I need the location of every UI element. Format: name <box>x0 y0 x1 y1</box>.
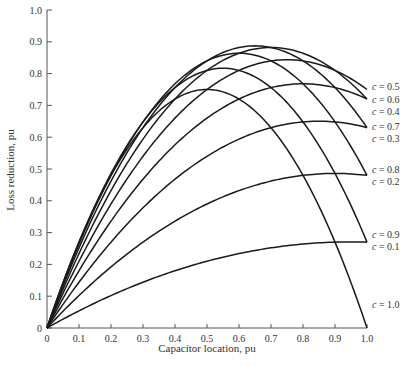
y-axis-title: Loss reduction, pu <box>4 129 16 211</box>
curve-c-0.3 <box>47 121 367 328</box>
y-tick-label: 0.3 <box>30 227 43 238</box>
y-tick-label: 0.1 <box>30 291 43 302</box>
x-tick-label: 0.9 <box>329 333 342 344</box>
curves <box>47 46 367 328</box>
curve-label: c = 0.3 <box>372 133 400 144</box>
x-tick-label: 1.0 <box>361 333 374 344</box>
y-tick-label: 0.2 <box>30 259 43 270</box>
curve-label: c = 0.5 <box>372 81 400 92</box>
curve-c-0.9 <box>47 68 367 328</box>
curve-label: c = 0.8 <box>372 164 400 175</box>
y-tick-label: 0.6 <box>30 132 43 143</box>
y-tick-label: 0.8 <box>30 68 43 79</box>
curve-label: c = 0.4 <box>372 106 400 117</box>
curve-c-0.1 <box>47 242 367 328</box>
curve-c-0.2 <box>47 173 367 328</box>
curve-label: c = 0.7 <box>372 121 400 132</box>
y-tick-label: 1.0 <box>30 5 43 16</box>
curve-label: c = 1.0 <box>372 299 400 310</box>
y-tick-label: 0.9 <box>30 36 43 47</box>
loss-reduction-chart: 00.10.20.30.40.50.60.70.80.91.000.10.20.… <box>0 0 406 367</box>
x-tick-label: 0.8 <box>297 333 310 344</box>
curve-c-0.7 <box>47 46 367 328</box>
curve-c-0.8 <box>47 53 367 328</box>
curve-label: c = 0.9 <box>372 229 400 240</box>
y-tick-label: 0.7 <box>30 100 43 111</box>
y-tick-label: 0 <box>37 323 42 334</box>
y-tick-label: 0.4 <box>30 195 43 206</box>
curve-label: c = 0.6 <box>372 94 400 105</box>
y-tick-label: 0.5 <box>30 164 43 175</box>
curve-label: c = 0.2 <box>372 176 400 187</box>
x-axis-title: Capacitor location, pu <box>158 342 256 354</box>
curve-label: c = 0.1 <box>372 241 400 252</box>
x-tick-label: 0.3 <box>137 333 150 344</box>
x-tick-label: 0.1 <box>73 333 86 344</box>
curve-labels: c = 0.5c = 0.6c = 0.4c = 0.7c = 0.3c = 0… <box>372 81 400 310</box>
x-tick-label: 0 <box>45 333 50 344</box>
x-tick-label: 0.2 <box>105 333 118 344</box>
x-tick-label: 0.7 <box>265 333 278 344</box>
